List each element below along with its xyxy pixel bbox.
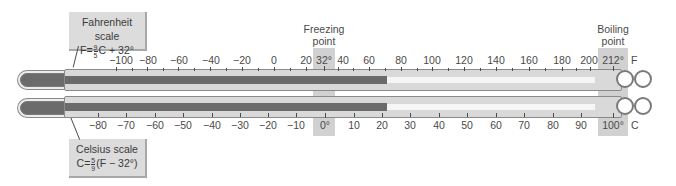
f-label-boiling: 212°: [602, 54, 624, 66]
f-label: 140: [487, 54, 505, 66]
tick: [242, 67, 243, 71]
tick: [401, 67, 402, 71]
celsius-formula: C=59(F − 32°): [69, 156, 145, 172]
tick: [562, 67, 563, 71]
formula-prefix: C=: [77, 157, 91, 169]
tick: [448, 68, 449, 71]
tick: [410, 113, 411, 117]
tick: [240, 113, 241, 117]
c-label: −70: [117, 119, 135, 131]
formula-suffix: (F − 32°): [96, 157, 137, 169]
c-label: −80: [89, 119, 107, 131]
fahrenheit-unit-label: F: [631, 54, 637, 66]
c-label: 20: [376, 119, 388, 131]
boiling-line2: point: [588, 35, 638, 47]
celsius-unit-label: C: [631, 119, 639, 131]
tick: [306, 67, 307, 71]
fahrenheit-scale-callout: Fahrenheit scale F=95C + 32°: [69, 12, 147, 51]
tick: [290, 68, 291, 71]
celsius-callout-title: Celsius scale: [69, 142, 145, 156]
fahrenheit-tube: [64, 69, 622, 91]
celsius-mercury-column: [65, 103, 387, 111]
tick: [354, 113, 355, 117]
f-label: 180: [553, 54, 571, 66]
tick: [417, 68, 418, 71]
c-label: 50: [461, 119, 473, 131]
fahrenheit-mercury-column: [65, 76, 387, 84]
frac-num: 5: [91, 157, 95, 164]
tick: [296, 113, 297, 117]
c-label: 10: [348, 119, 360, 131]
c-label: −40: [203, 119, 221, 131]
celsius-ring-outer: [634, 97, 652, 115]
tick: [353, 68, 354, 71]
celsius-tube: [64, 96, 622, 118]
frac-num: 9: [94, 44, 98, 51]
tick: [576, 68, 577, 71]
c-label: −10: [287, 119, 305, 131]
tick: [147, 67, 148, 71]
tick: [116, 67, 117, 71]
tick: [581, 113, 582, 117]
tick: [439, 113, 440, 117]
tick: [183, 113, 184, 117]
tick: [178, 67, 179, 71]
c-label: 60: [490, 119, 502, 131]
boiling-line1: Boiling: [588, 23, 638, 35]
tick: [338, 67, 339, 71]
f-label: −40: [202, 54, 220, 66]
f-label: 160: [520, 54, 538, 66]
tick: [382, 113, 383, 117]
tick: [553, 113, 554, 117]
tick: [132, 68, 133, 71]
fahrenheit-ring-inner: [616, 70, 634, 88]
fraction: 59: [91, 157, 95, 172]
c-label: −20: [259, 119, 277, 131]
tick: [613, 66, 614, 71]
frac-den: 9: [91, 164, 95, 172]
f-label: 120: [455, 54, 473, 66]
tick: [210, 67, 211, 71]
f-label: −80: [139, 54, 157, 66]
f-label: 40: [337, 54, 349, 66]
c-label: 30: [404, 119, 416, 131]
tick: [369, 67, 370, 71]
tick: [512, 68, 513, 71]
f-label: 60: [363, 54, 375, 66]
tick: [432, 67, 433, 71]
tick: [545, 68, 546, 71]
celsius-ring-inner: [616, 97, 634, 115]
tick: [126, 113, 127, 117]
tick: [524, 113, 525, 117]
tick: [496, 67, 497, 71]
f-label: 80: [395, 54, 407, 66]
tick: [480, 68, 481, 71]
tick: [226, 68, 227, 71]
fraction: 95: [94, 44, 98, 59]
f-label: −100: [109, 54, 133, 66]
f-label: 100: [423, 54, 441, 66]
celsius-scale-callout: Celsius scale C=59(F − 32°): [69, 139, 147, 178]
c-label-boiling: 100°: [602, 119, 624, 131]
tick: [385, 68, 386, 71]
c-label: 90: [575, 119, 587, 131]
c-label: 40: [433, 119, 445, 131]
tick: [467, 113, 468, 117]
tick: [464, 67, 465, 71]
tick: [98, 113, 99, 117]
fahrenheit-formula: F=95C + 32°: [69, 43, 145, 59]
c-label-freezing: 0°: [320, 119, 330, 131]
tick: [496, 113, 497, 117]
tick: [324, 66, 325, 71]
tick: [194, 68, 195, 71]
tick: [268, 113, 269, 117]
frac-den: 5: [94, 51, 98, 59]
c-label: −60: [146, 119, 164, 131]
freezing-point-label: Freezing point: [299, 23, 349, 47]
f-label-freezing: 32°: [316, 54, 332, 66]
tick: [613, 113, 614, 118]
f-label: −60: [170, 54, 188, 66]
tick: [325, 113, 326, 118]
f-label: −20: [233, 54, 251, 66]
tick: [590, 67, 591, 71]
